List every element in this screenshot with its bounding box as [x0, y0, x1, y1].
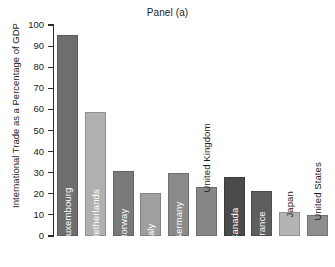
bar-label: Canada	[229, 208, 239, 242]
plot-area: LuxembourgNetherlandsNorwayItalyGermanyU…	[54, 25, 331, 236]
y-tick-label: 0	[18, 231, 44, 241]
chart-title: Panel (a)	[0, 7, 335, 18]
bar-label: Germany	[174, 202, 184, 242]
y-tick-mark	[48, 214, 53, 215]
y-tick-mark	[48, 172, 53, 173]
bar	[196, 187, 217, 236]
y-tick-label: 40	[18, 147, 44, 157]
bar-label: Luxembourg	[63, 188, 73, 242]
bar-label: France	[257, 211, 267, 241]
y-tick-mark	[48, 24, 53, 25]
y-axis-label-container: International Trade as a Percentage of G…	[0, 0, 20, 267]
bar-label: United Kingdom	[201, 124, 211, 193]
y-tick-label: 60	[18, 104, 44, 114]
y-tick-mark	[48, 67, 53, 68]
y-tick-mark	[48, 130, 53, 131]
y-tick-mark	[48, 88, 53, 89]
y-tick-label: 10	[18, 210, 44, 220]
y-tick-mark	[48, 235, 53, 236]
y-tick-label: 50	[18, 126, 44, 136]
y-tick-label: 100	[18, 20, 44, 30]
bar-label: United States	[312, 162, 322, 220]
bar-label: Italy	[146, 224, 156, 242]
y-tick-mark	[48, 151, 53, 152]
y-tick-label: 70	[18, 83, 44, 93]
bar-chart: Panel (a) International Trade as a Perce…	[0, 0, 335, 267]
bar-label: Japan	[284, 191, 294, 217]
y-tick-label: 80	[18, 62, 44, 72]
y-tick-label: 30	[18, 168, 44, 178]
bar-label: Netherlands	[91, 189, 101, 241]
y-tick-mark	[48, 193, 53, 194]
y-tick-label: 90	[18, 41, 44, 51]
y-tick-mark	[48, 109, 53, 110]
bar-label: Norway	[118, 209, 128, 242]
y-tick-label: 20	[18, 189, 44, 199]
y-tick-mark	[48, 46, 53, 47]
